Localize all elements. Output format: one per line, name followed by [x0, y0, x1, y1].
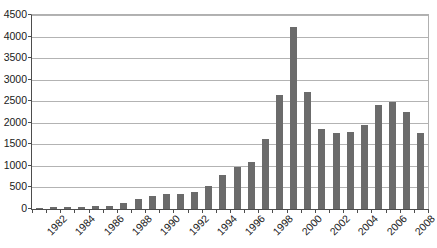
x-tick-label: 1992 — [186, 213, 210, 237]
bar — [163, 194, 170, 209]
bar — [149, 196, 156, 209]
x-tick-label: 1984 — [73, 213, 97, 237]
y-tick-label: 1000 — [4, 160, 27, 171]
y-tick-mark — [28, 57, 31, 58]
bar — [361, 125, 368, 209]
y-tick-mark — [28, 208, 31, 209]
x-tick-label: 1982 — [45, 213, 69, 237]
x-tick-label: 1986 — [101, 213, 125, 237]
y-tick-label: 1500 — [4, 138, 27, 149]
x-axis: 1982198419861988199019921994199619982000… — [32, 213, 432, 248]
x-tick-label: 1990 — [158, 213, 182, 237]
y-tick-label: 2000 — [4, 117, 27, 128]
bar — [417, 133, 424, 209]
bar — [234, 167, 241, 209]
bar — [347, 132, 354, 209]
bar — [290, 27, 297, 209]
x-tick-label: 1988 — [130, 213, 154, 237]
y-tick-label: 4500 — [4, 9, 27, 20]
y-tick-label: 3000 — [4, 73, 27, 84]
y-tick-mark — [28, 36, 31, 37]
y-tick-label: 2500 — [4, 95, 27, 106]
bar — [205, 186, 212, 209]
y-tick-mark — [28, 14, 31, 15]
bar — [276, 95, 283, 209]
bar — [262, 139, 269, 209]
bar — [304, 92, 311, 209]
bars-series — [32, 14, 428, 209]
x-tick-label: 1998 — [271, 213, 295, 237]
y-tick-label: 4000 — [4, 30, 27, 41]
bar — [135, 199, 142, 209]
x-tick-label: 2004 — [356, 213, 380, 237]
bar — [318, 129, 325, 209]
y-tick-mark — [28, 79, 31, 80]
x-tick-label: 2002 — [328, 213, 352, 237]
bar — [191, 192, 198, 209]
x-tick-label: 1994 — [215, 213, 239, 237]
y-tick-mark — [28, 143, 31, 144]
x-tick-label: 2000 — [299, 213, 323, 237]
bar — [333, 133, 340, 209]
y-tick-mark — [28, 100, 31, 101]
bar — [177, 194, 184, 209]
x-tick-label: 2006 — [384, 213, 408, 237]
bar — [219, 175, 226, 209]
bar — [375, 105, 382, 209]
y-tick-label: 3500 — [4, 52, 27, 63]
bar — [389, 102, 396, 209]
y-tick-mark — [28, 186, 31, 187]
y-axis: 050010001500200025003000350040004500 — [0, 14, 27, 208]
y-tick-mark — [28, 165, 31, 166]
bar — [248, 162, 255, 209]
bar — [403, 112, 410, 209]
chart-title — [0, 0, 434, 4]
y-tick-label: 500 — [9, 181, 27, 192]
x-tick-label: 1996 — [243, 213, 267, 237]
y-tick-mark — [28, 122, 31, 123]
x-tick-label: 2008 — [413, 213, 437, 237]
y-tick-label: 0 — [21, 203, 27, 214]
